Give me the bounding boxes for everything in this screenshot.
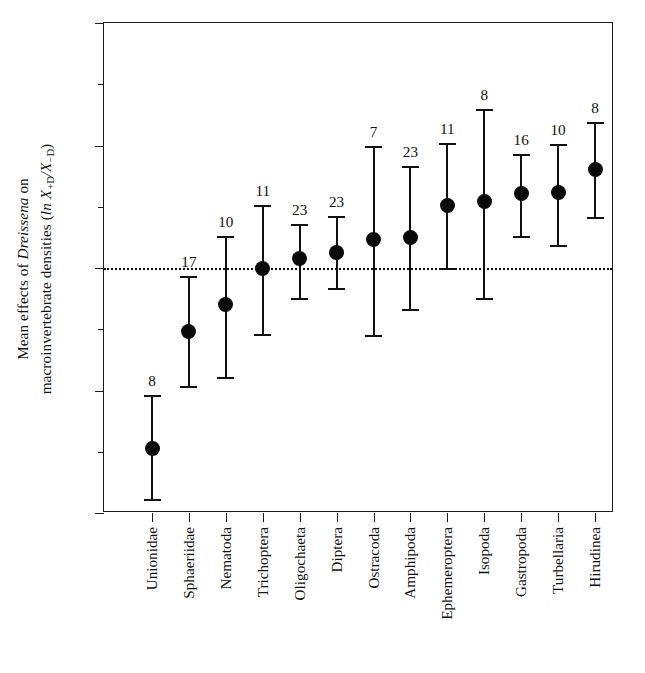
y-axis-units-x2: /X — [37, 163, 54, 177]
y-axis-tick — [95, 268, 104, 269]
y-axis-minor-tick — [98, 84, 104, 85]
y-axis-minor-tick — [98, 207, 104, 208]
error-bar-upper-cap — [328, 216, 345, 218]
y-axis-units-prefix: macroinvertebrate densities ( — [37, 215, 54, 394]
y-axis-title: Mean effects of Dreissena on macroinvert… — [9, 19, 61, 519]
y-axis-title-line-1: Mean effects of Dreissena on — [11, 144, 34, 395]
sample-size-label: 17 — [181, 254, 196, 269]
error-bar-upper-cap — [180, 276, 197, 278]
error-bar-upper-cap — [476, 109, 493, 111]
y-axis-title-suffix: on — [14, 178, 31, 197]
y-axis-title-genus: Dreissena — [14, 197, 31, 259]
error-bar-upper-cap — [291, 224, 308, 226]
x-axis-category-label: Amphipoda — [403, 527, 418, 599]
x-axis-tick — [374, 513, 375, 522]
x-axis-category-label: Gastropoda — [514, 527, 529, 597]
y-axis-units-subscript-plus-d: +D — [45, 176, 56, 190]
sample-size-label: 23 — [403, 144, 418, 159]
y-axis-minor-tick — [98, 329, 104, 330]
y-axis-tick — [95, 513, 104, 514]
x-axis-category-label: Ephemeroptera — [440, 527, 455, 620]
y-axis-units-subscript-minus-d: −D — [45, 149, 56, 163]
x-axis-tick — [337, 513, 338, 522]
x-axis-category-label: Diptera — [329, 527, 344, 573]
error-bar-lower-cap — [328, 288, 345, 290]
error-bar-lower-cap — [254, 334, 271, 336]
error-bar-lower-cap — [217, 377, 234, 379]
y-axis-tick — [95, 23, 104, 24]
y-axis-title-prefix: Mean effects of — [14, 259, 31, 359]
y-axis-units-close-paren: ) — [37, 144, 54, 149]
error-bar-upper-cap — [402, 166, 419, 168]
error-bar-upper-cap — [144, 395, 161, 397]
error-bar-lower-cap — [439, 268, 456, 270]
x-axis-category-label: Unionidae — [144, 527, 159, 590]
data-point-marker[interactable] — [514, 186, 529, 201]
data-point-marker[interactable] — [255, 261, 270, 276]
y-axis-tick — [95, 391, 104, 392]
error-bar-lower-cap — [144, 499, 161, 501]
sample-size-label: 7 — [370, 124, 378, 139]
x-axis-tick — [189, 513, 190, 522]
x-axis-tick — [521, 513, 522, 522]
data-point-marker[interactable] — [329, 245, 344, 260]
error-bar-upper-cap — [587, 122, 604, 124]
x-axis-tick — [152, 513, 153, 522]
x-axis-tick — [484, 513, 485, 522]
error-bar-lower-cap — [402, 309, 419, 311]
data-point-marker[interactable] — [366, 232, 381, 247]
x-axis-category-label: Hirudinea — [587, 527, 602, 588]
sample-size-label: 11 — [255, 183, 270, 198]
x-axis-tick — [226, 513, 227, 522]
x-axis-category-label: Isopoda — [477, 527, 492, 575]
error-bar-upper-cap — [365, 146, 382, 148]
data-point-marker[interactable] — [145, 441, 160, 456]
data-point-marker[interactable] — [181, 324, 196, 339]
error-bar-lower-cap — [587, 217, 604, 219]
sample-size-label: 8 — [591, 100, 599, 115]
error-bar-lower-cap — [180, 386, 197, 388]
sample-size-label: 11 — [440, 121, 455, 136]
x-axis-category-label: Nematoda — [218, 527, 233, 589]
data-point-marker[interactable] — [403, 230, 418, 245]
error-bar-lower-cap — [365, 335, 382, 337]
sample-size-label: 10 — [550, 122, 565, 137]
x-axis-tick — [558, 513, 559, 522]
data-point-marker[interactable] — [440, 198, 455, 213]
error-bar-upper-cap — [254, 205, 271, 207]
zero-reference-line — [104, 268, 612, 270]
sample-size-label: 23 — [292, 202, 307, 217]
error-bar-upper-cap — [439, 143, 456, 145]
x-axis-tick — [410, 513, 411, 522]
error-bar-upper-cap — [513, 154, 530, 156]
error-bar-lower-cap — [291, 298, 308, 300]
sample-size-label: 23 — [329, 194, 344, 209]
x-axis-category-label: Trichoptera — [255, 527, 270, 597]
data-point-marker[interactable] — [588, 162, 603, 177]
plot-area: 420−2−4 UnionidaeSphaeriidaeNematodaTric… — [103, 22, 613, 512]
x-axis-tick — [447, 513, 448, 522]
x-axis-category-label: Turbellaria — [550, 527, 565, 594]
data-point-marker[interactable] — [292, 251, 307, 266]
error-bar-upper-cap — [217, 236, 234, 238]
error-bar-upper-cap — [550, 144, 567, 146]
y-axis-units-ln: ln — [37, 203, 54, 215]
y-axis-tick — [95, 146, 104, 147]
x-axis-category-label: Sphaeriidae — [181, 527, 196, 599]
sample-size-label: 8 — [480, 87, 488, 102]
data-point-marker[interactable] — [218, 297, 233, 312]
x-axis-tick — [595, 513, 596, 522]
data-point-marker[interactable] — [551, 185, 566, 200]
error-bar-lower-cap — [513, 236, 530, 238]
error-bar-lower-cap — [550, 245, 567, 247]
data-point-marker[interactable] — [477, 194, 492, 209]
sample-size-label: 16 — [514, 132, 529, 147]
y-axis-units-x1: X — [37, 190, 54, 203]
x-axis-category-label: Ostracoda — [366, 527, 381, 589]
error-bar-lower-cap — [476, 298, 493, 300]
sample-size-label: 10 — [218, 214, 233, 229]
y-axis-title-line-2: macroinvertebrate densities (ln X+D/X−D) — [34, 144, 59, 395]
figure-container: Mean effects of Dreissena on macroinvert… — [0, 0, 645, 673]
x-axis-category-label: Oligochaeta — [292, 527, 307, 600]
sample-size-label: 8 — [148, 373, 156, 388]
